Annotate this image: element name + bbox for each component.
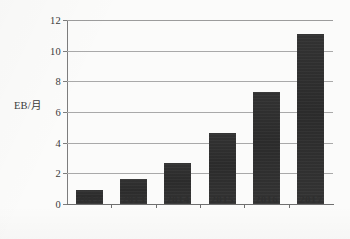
y-axis-tick-label: 6 <box>56 107 61 118</box>
y-axis-tick-label: 4 <box>56 137 61 148</box>
y-axis-tick <box>63 204 67 205</box>
x-axis-tick-label: 2014 <box>166 193 189 205</box>
plot-area: 024681012 <box>67 20 333 204</box>
x-axis-tick-label: 2016 <box>255 193 278 205</box>
y-axis-tick-label: 2 <box>56 168 61 179</box>
bar-group <box>67 20 111 204</box>
bar-group <box>200 20 244 204</box>
x-axis-tick <box>289 204 290 208</box>
y-axis-tick-label: 12 <box>50 15 61 26</box>
x-axis-tick <box>111 204 112 208</box>
x-axis-tick-label: 2017 <box>299 193 322 205</box>
x-axis-tick-label: 2012 <box>78 193 101 205</box>
bar-group <box>111 20 155 204</box>
bar-group <box>244 20 288 204</box>
x-axis-tick <box>156 204 157 208</box>
y-axis-title: EB/月 <box>14 97 41 112</box>
bar <box>253 92 280 204</box>
bar <box>297 34 324 204</box>
x-axis-tick <box>200 204 201 208</box>
y-axis-tick-label: 8 <box>56 76 61 87</box>
x-axis-tick <box>244 204 245 208</box>
x-axis-tick-label: 2015 <box>211 193 234 205</box>
y-axis-tick-label: 0 <box>56 199 61 210</box>
bar-chart-figure: EB/月 024681012 201220132014201520162017 <box>0 0 350 239</box>
bar-group <box>289 20 333 204</box>
bar-group <box>156 20 200 204</box>
x-axis-tick-label: 2013 <box>122 193 145 205</box>
y-axis-tick-label: 10 <box>50 45 61 56</box>
